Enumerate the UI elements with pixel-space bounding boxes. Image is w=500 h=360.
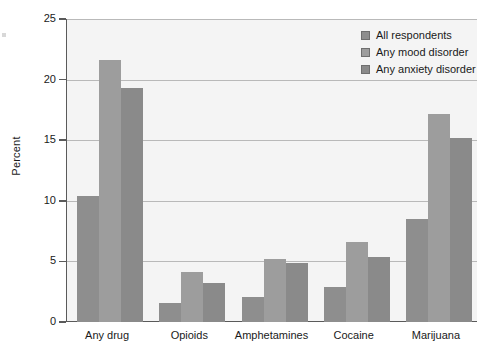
x-axis-tick-label: Any drug [66, 329, 148, 341]
legend-label: Any anxiety disorder [376, 64, 476, 75]
bar [368, 257, 390, 322]
legend-label: All respondents [376, 30, 452, 41]
x-axis-tick-label: Cocaine [313, 329, 395, 341]
y-axis-tick-label: 20 [20, 74, 56, 85]
y-axis-tick [59, 139, 66, 141]
bar [450, 138, 472, 322]
chart-legend: All respondents Any mood disorder Any an… [361, 28, 476, 79]
y-axis-tick-label: 25 [20, 13, 56, 24]
y-axis-tick [59, 79, 66, 81]
bar [121, 88, 143, 322]
legend-swatch-icon [361, 48, 370, 57]
bar [428, 114, 450, 322]
y-axis-tick-label: 10 [20, 195, 56, 206]
legend-swatch-icon [361, 65, 370, 74]
bar [99, 60, 121, 322]
bar [203, 283, 225, 322]
y-axis-tick [59, 321, 66, 323]
bar [242, 297, 264, 322]
x-axis-tick-label: Opioids [148, 329, 230, 341]
x-axis-tick-label: Marijuana [395, 329, 477, 341]
bar [181, 272, 203, 322]
y-axis-tick-label: 15 [20, 134, 56, 145]
legend-item-any-mood-disorder: Any mood disorder [361, 45, 476, 60]
bar [264, 259, 286, 322]
legend-item-all-respondents: All respondents [361, 28, 476, 43]
edge-artifact [2, 33, 6, 37]
bar-group [242, 19, 308, 322]
y-axis-tick-label: 0 [20, 316, 56, 327]
y-axis-tick-label: 5 [20, 255, 56, 266]
bar [346, 242, 368, 322]
x-axis-tick-label: Amphetamines [230, 329, 312, 341]
legend-swatch-icon [361, 31, 370, 40]
bar [324, 287, 346, 322]
bar-chart: Percent 0510152025 Any drugOpioidsAmphet… [0, 0, 500, 360]
bar-group [159, 19, 225, 322]
y-axis-tick [59, 200, 66, 202]
bar [159, 303, 181, 322]
bar [77, 196, 99, 322]
y-axis-tick [59, 18, 66, 20]
legend-label: Any mood disorder [376, 47, 468, 58]
y-axis-tick [59, 261, 66, 263]
bar [406, 219, 428, 322]
bar [286, 263, 308, 322]
legend-item-any-anxiety-disorder: Any anxiety disorder [361, 62, 476, 77]
bar-group [77, 19, 143, 322]
